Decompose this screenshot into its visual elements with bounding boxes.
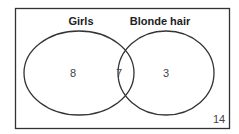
- outside-count: 14: [213, 113, 225, 125]
- intersection-count: 7: [116, 67, 122, 79]
- universal-set-box: [16, 9, 230, 129]
- blonde-only-count: 3: [163, 67, 169, 79]
- venn-diagram: Girls Blonde hair 8 7 3 14: [0, 0, 239, 134]
- girls-only-count: 8: [70, 67, 76, 79]
- girls-label: Girls: [68, 15, 93, 27]
- blonde-hair-label: Blonde hair: [130, 15, 191, 27]
